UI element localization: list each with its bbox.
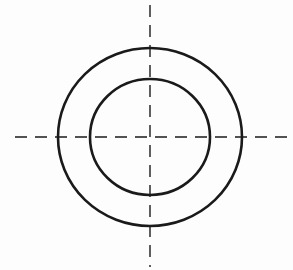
concentric-circles-drawing (0, 0, 293, 270)
diagram-canvas: Concentric circles with centerlines (0, 0, 293, 270)
